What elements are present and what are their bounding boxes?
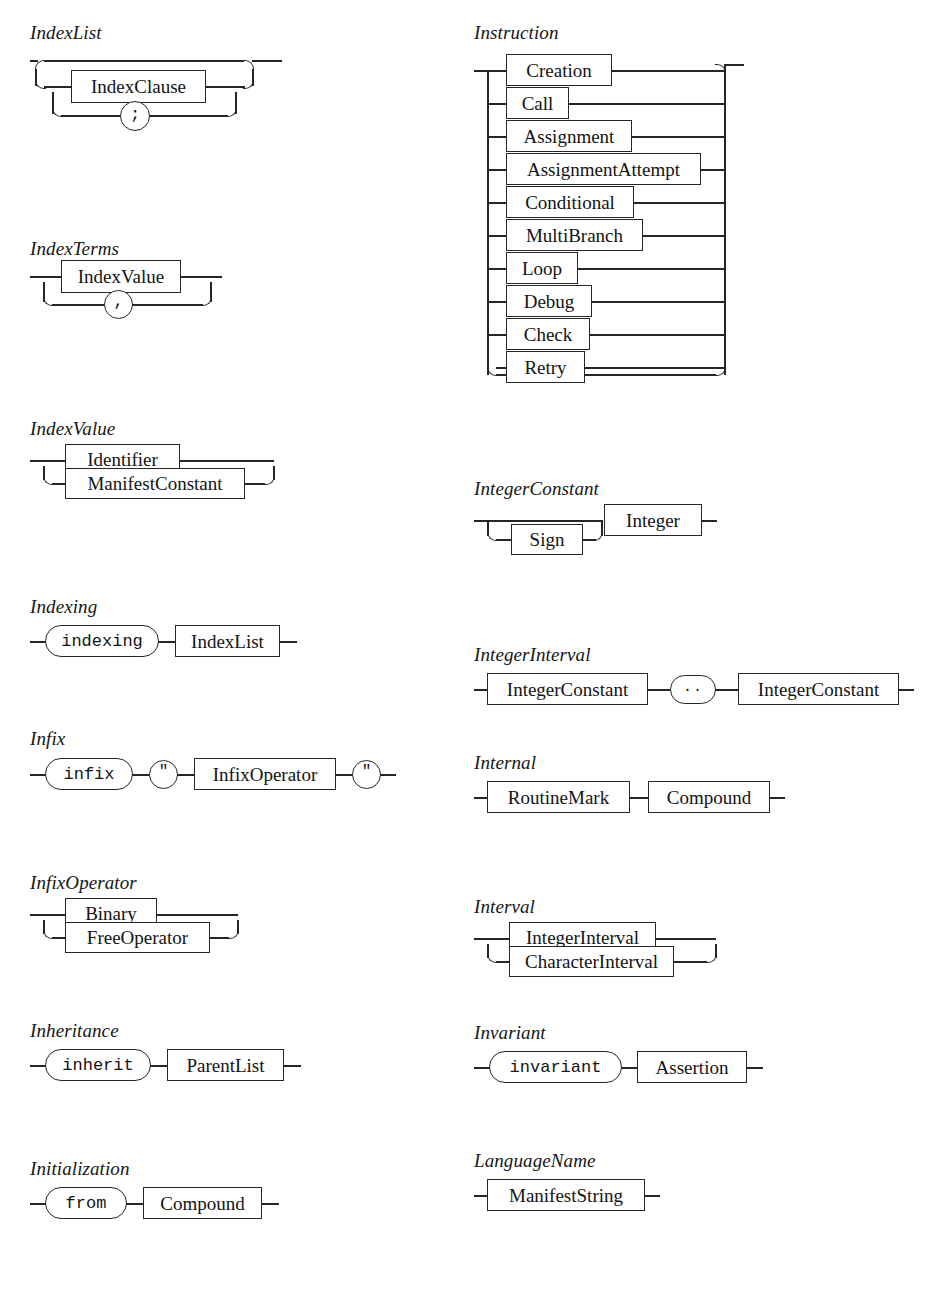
- rail-segment: [61, 115, 121, 117]
- production-name: Invariant: [474, 1022, 794, 1044]
- production-name: Indexing: [30, 596, 330, 618]
- nonterminal-compound[interactable]: Compound: [143, 1187, 262, 1219]
- rail-left-bus: [487, 70, 489, 375]
- rail-segment: [673, 961, 707, 963]
- rail-segment: [179, 460, 274, 462]
- nonterminal-manifestconstant[interactable]: ManifestConstant: [65, 468, 245, 499]
- syntax-diagram-page: IndexList IndexClause: [0, 0, 948, 1290]
- nonterminal-multibranch[interactable]: MultiBranch: [506, 219, 643, 251]
- nonterminal-integerconstant-left[interactable]: IntegerConstant: [487, 673, 648, 705]
- nonterminal-call[interactable]: Call: [506, 87, 569, 119]
- terminal-quote-close[interactable]: ": [352, 760, 381, 789]
- rail-segment: [577, 268, 725, 270]
- nonterminal-assignment[interactable]: Assignment: [506, 120, 632, 152]
- rail-segment: [237, 920, 239, 934]
- production-integerinterval: IntegerInterval IntegerConstant .. Integ…: [474, 644, 924, 714]
- rail-segment: [474, 1195, 488, 1197]
- nonterminal-manifeststring[interactable]: ManifestString: [487, 1179, 645, 1211]
- nonterminal-indexlist[interactable]: IndexList: [175, 625, 280, 657]
- rail-segment: [644, 1195, 660, 1197]
- production-name: Internal: [474, 752, 794, 774]
- production-name: Infix: [30, 728, 400, 750]
- rail-segment: [631, 136, 725, 138]
- nonterminal-compound[interactable]: Compound: [648, 781, 770, 813]
- terminal-quote-open[interactable]: ": [149, 760, 178, 789]
- nonterminal-sign[interactable]: Sign: [511, 524, 583, 555]
- production-indexing: Indexing indexing IndexList: [30, 596, 330, 666]
- rail-segment: [132, 774, 150, 776]
- nonterminal-assignmentattempt[interactable]: AssignmentAttempt: [506, 153, 701, 185]
- rail-segment: [283, 1065, 301, 1067]
- rail-right-bus: [724, 64, 726, 375]
- rail-segment: [273, 466, 275, 480]
- rail-segment: [487, 103, 507, 105]
- nonterminal-indexvalue[interactable]: IndexValue: [61, 260, 181, 293]
- production-initialization: Initialization from Compound: [30, 1158, 330, 1228]
- rail-segment: [44, 86, 72, 88]
- rail-segment: [487, 334, 507, 336]
- rail-segment: [474, 689, 488, 691]
- nonterminal-indexclause[interactable]: IndexClause: [71, 70, 206, 103]
- terminal-keyword-inherit[interactable]: inherit: [45, 1049, 151, 1081]
- rail-segment: [30, 276, 62, 278]
- nonterminal-assertion[interactable]: Assertion: [637, 1051, 747, 1083]
- nonterminal-characterinterval[interactable]: CharacterInterval: [509, 946, 674, 977]
- nonterminal-integer[interactable]: Integer: [604, 504, 702, 536]
- nonterminal-debug[interactable]: Debug: [506, 285, 592, 317]
- production-name: IndexValue: [30, 418, 310, 440]
- nonterminal-creation[interactable]: Creation: [506, 54, 612, 86]
- nonterminal-conditional[interactable]: Conditional: [506, 186, 634, 218]
- production-name: IndexList: [30, 22, 300, 44]
- rail-segment: [715, 944, 717, 958]
- nonterminal-check[interactable]: Check: [506, 318, 590, 350]
- nonterminal-integerconstant-right[interactable]: IntegerConstant: [738, 673, 899, 705]
- production-integerconstant: IntegerConstant Sign Integer: [474, 478, 754, 584]
- rail-segment: [621, 1067, 638, 1069]
- railroad-diagram: IntegerConstant .. IntegerConstant: [474, 670, 924, 714]
- rail-segment: [380, 774, 396, 776]
- rail-segment: [487, 235, 507, 237]
- railroad-diagram: IndexClause ;: [30, 48, 300, 158]
- rail-segment: [487, 70, 507, 72]
- railroad-diagram: infix " InfixOperator ": [30, 754, 400, 800]
- nonterminal-routinemark[interactable]: RoutineMark: [487, 781, 630, 813]
- rail-segment: [715, 689, 739, 691]
- terminal-keyword-from[interactable]: from: [45, 1187, 127, 1219]
- rail-segment: [487, 301, 507, 303]
- rail-segment: [126, 1203, 144, 1205]
- production-name: IntegerInterval: [474, 644, 924, 666]
- nonterminal-freeoperator[interactable]: FreeOperator: [65, 922, 210, 953]
- terminal-keyword-invariant[interactable]: invariant: [489, 1051, 622, 1083]
- rail-segment: [30, 1203, 46, 1205]
- railroad-diagram: IntegerInterval CharacterInterval: [474, 922, 754, 1002]
- railroad-diagram: RoutineMark Compound: [474, 778, 794, 822]
- terminal-semicolon[interactable]: ;: [120, 101, 150, 131]
- railroad-diagram: inherit ParentList: [30, 1046, 330, 1090]
- rail-segment: [642, 235, 725, 237]
- nonterminal-retry[interactable]: Retry: [506, 351, 585, 383]
- nonterminal-loop[interactable]: Loop: [506, 252, 578, 284]
- nonterminal-parentlist[interactable]: ParentList: [167, 1049, 284, 1081]
- rail-segment: [591, 301, 725, 303]
- rail-segment: [487, 169, 507, 171]
- rail-segment: [487, 268, 507, 270]
- terminal-keyword-infix[interactable]: infix: [45, 758, 133, 790]
- rail-segment: [335, 774, 353, 776]
- rail-segment: [647, 689, 671, 691]
- rail-segment: [30, 774, 46, 776]
- terminal-comma[interactable]: ,: [104, 290, 133, 319]
- production-instruction: Instruction Creation: [474, 22, 774, 393]
- rail-segment: [474, 520, 602, 522]
- railroad-diagram: Binary FreeOperator: [30, 898, 290, 978]
- terminal-keyword-indexing[interactable]: indexing: [45, 625, 159, 657]
- rail-segment: [30, 60, 38, 62]
- rail-corner: [35, 60, 46, 71]
- terminal-range-dotdot[interactable]: ..: [670, 675, 716, 704]
- rail-segment: [149, 115, 228, 117]
- railroad-diagram: indexing IndexList: [30, 622, 330, 666]
- rail-segment: [629, 797, 649, 799]
- railroad-diagram: invariant Assertion: [474, 1048, 794, 1092]
- rail-segment: [150, 1065, 168, 1067]
- production-internal: Internal RoutineMark Compound: [474, 752, 794, 822]
- nonterminal-infixoperator[interactable]: InfixOperator: [194, 758, 336, 790]
